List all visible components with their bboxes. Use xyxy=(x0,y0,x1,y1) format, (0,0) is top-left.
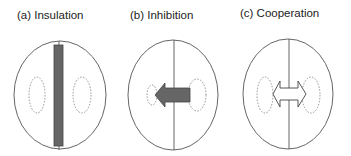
diagram-canvas xyxy=(0,0,351,156)
insulation-bar xyxy=(54,45,63,146)
right-region-dashed-ellipse xyxy=(73,77,91,113)
left-region-dashed-ellipse xyxy=(257,77,273,113)
right-region-dashed-ellipse xyxy=(188,79,206,111)
left-region-dashed-ellipse xyxy=(29,77,45,113)
panel-a-insulation xyxy=(14,41,106,150)
inhibition-arrow-icon xyxy=(155,83,190,107)
panel-b-inhibition xyxy=(128,40,218,150)
cooperation-double-arrow-icon xyxy=(273,81,306,107)
panel-c-cooperation xyxy=(243,39,333,149)
